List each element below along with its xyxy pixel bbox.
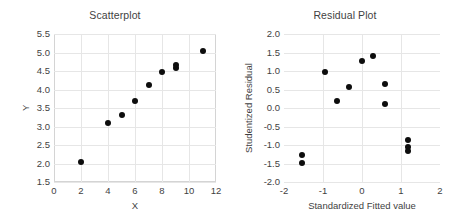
gridline-vertical <box>401 34 402 182</box>
residual-plot-x-axis-label: Standardized Fitted value <box>284 200 440 211</box>
residual-plot-title: Residual Plot <box>230 9 460 21</box>
data-point <box>299 160 305 166</box>
x-tick-label: 0 <box>39 185 69 196</box>
data-point <box>200 48 206 54</box>
residual-plot-y-axis-label: Studentized Residual <box>243 63 254 153</box>
data-point <box>405 137 411 143</box>
data-point <box>359 58 365 64</box>
data-point <box>146 82 152 88</box>
y-tick-label: 4.0 <box>20 85 50 95</box>
data-point <box>159 69 165 75</box>
x-tick-label: 12 <box>201 185 231 196</box>
scatterplot-x-axis-label: X <box>54 200 216 211</box>
data-point <box>299 152 305 158</box>
x-tick-label: 2 <box>66 185 96 196</box>
y-tick-label: 3.0 <box>20 122 50 132</box>
x-tick-label: 1 <box>386 185 416 196</box>
scatterplot-title: Scatterplot <box>0 9 230 21</box>
x-tick-label: 0 <box>347 185 377 196</box>
y-tick-label: 4.5 <box>20 66 50 76</box>
gridline-horizontal <box>284 182 440 183</box>
data-point <box>322 69 328 75</box>
gridline-vertical <box>189 34 190 182</box>
x-tick-label: 10 <box>174 185 204 196</box>
scatterplot-y-axis-label: Y <box>20 105 31 111</box>
data-point <box>334 98 340 104</box>
data-point <box>346 84 352 90</box>
y-tick-label: 2.0 <box>20 159 50 169</box>
y-tick-label: 0.0 <box>250 103 280 113</box>
gridline-vertical <box>135 34 136 182</box>
x-tick-label: 4 <box>93 185 123 196</box>
data-point <box>78 159 84 165</box>
x-tick-label: 6 <box>120 185 150 196</box>
y-tick-label: -1.5 <box>250 159 280 169</box>
data-point <box>119 112 125 118</box>
gridline-vertical <box>362 34 363 182</box>
x-tick-label: -1 <box>308 185 338 196</box>
gridline-vertical <box>162 34 163 182</box>
data-point <box>370 53 376 59</box>
y-tick-label: 1.0 <box>250 66 280 76</box>
y-tick-label: 5.5 <box>20 29 50 39</box>
data-point <box>105 120 111 126</box>
y-tick-label: -0.5 <box>250 122 280 132</box>
x-tick-label: 2 <box>425 185 455 196</box>
figure-canvas: Scatterplot 1.52.02.53.03.54.04.55.05.5 … <box>0 0 460 221</box>
y-tick-label: 2.0 <box>250 29 280 39</box>
gridline-horizontal <box>54 182 216 183</box>
x-tick-label: -2 <box>269 185 299 196</box>
y-tick-label: 0.5 <box>250 85 280 95</box>
data-point <box>382 101 388 107</box>
y-tick-label: -1.0 <box>250 140 280 150</box>
gridline-vertical <box>323 34 324 182</box>
gridline-vertical <box>108 34 109 182</box>
data-point <box>173 62 179 68</box>
y-tick-label: 1.5 <box>250 48 280 58</box>
y-tick-label: 2.5 <box>20 140 50 150</box>
scatterplot-panel: Scatterplot 1.52.02.53.03.54.04.55.05.5 … <box>0 0 230 221</box>
data-point <box>382 81 388 87</box>
data-point <box>405 148 411 154</box>
y-tick-label: 5.0 <box>20 48 50 58</box>
x-tick-label: 8 <box>147 185 177 196</box>
residual-plot-panel: Residual Plot -2.0-1.5-1.0-0.50.00.51.01… <box>230 0 460 221</box>
